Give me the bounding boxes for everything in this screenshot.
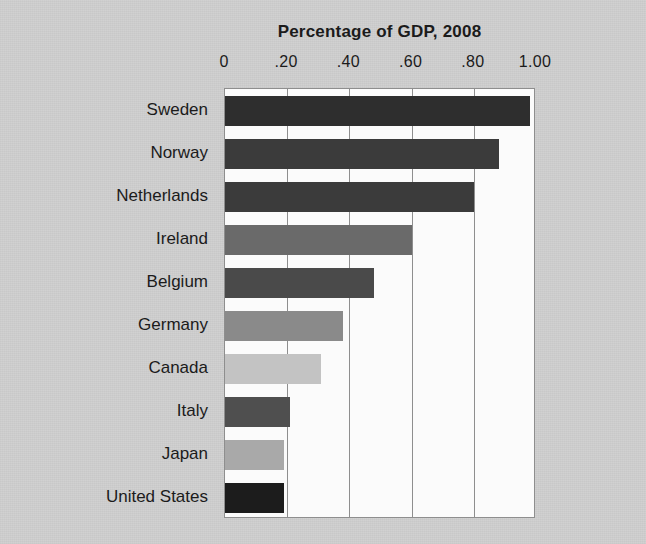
x-tick-label: .80 xyxy=(461,53,484,71)
bar-netherlands xyxy=(225,182,474,212)
bar-chart-figure: Percentage of GDP, 2008 0.20.40.60.801.0… xyxy=(0,0,646,544)
x-tick-label: 1.00 xyxy=(519,53,551,71)
bar-germany xyxy=(225,311,343,341)
x-tick-label: 0 xyxy=(219,53,228,71)
bar-united-states xyxy=(225,483,284,513)
category-label-canada: Canada xyxy=(148,353,208,383)
bar-italy xyxy=(225,397,290,427)
x-axis-tick-labels: 0.20.40.60.801.00 xyxy=(224,53,535,77)
category-label-ireland: Ireland xyxy=(156,224,208,254)
bars xyxy=(225,89,534,517)
bar-ireland xyxy=(225,225,412,255)
x-tick-label: .40 xyxy=(337,53,360,71)
category-axis-labels: SwedenNorwayNetherlandsIrelandBelgiumGer… xyxy=(0,88,216,518)
bar-norway xyxy=(225,139,499,169)
category-label-japan: Japan xyxy=(162,439,208,469)
bar-japan xyxy=(225,440,284,470)
category-label-netherlands: Netherlands xyxy=(116,181,208,211)
category-label-italy: Italy xyxy=(177,396,208,426)
category-label-norway: Norway xyxy=(150,138,208,168)
category-label-germany: Germany xyxy=(138,310,208,340)
category-label-sweden: Sweden xyxy=(147,95,208,125)
bar-sweden xyxy=(225,96,530,126)
category-label-united-states: United States xyxy=(106,482,208,512)
plot-area xyxy=(224,88,535,518)
chart-title: Percentage of GDP, 2008 xyxy=(224,22,535,42)
x-tick-label: .20 xyxy=(275,53,298,71)
bar-canada xyxy=(225,354,321,384)
x-tick-label: .60 xyxy=(399,53,422,71)
category-label-belgium: Belgium xyxy=(147,267,208,297)
bar-belgium xyxy=(225,268,374,298)
